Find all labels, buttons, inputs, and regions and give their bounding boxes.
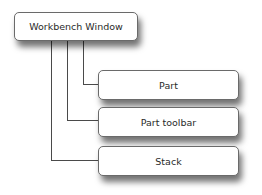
part-toolbar-label: Part toolbar — [141, 117, 197, 128]
stack-node: Stack — [98, 146, 239, 176]
workbench-window-node: Workbench Window — [14, 12, 138, 41]
connector-part-toolbar-horizontal — [67, 120, 99, 121]
part-label: Part — [159, 80, 178, 91]
stack-label: Stack — [155, 156, 181, 167]
connector-stack-vertical — [51, 40, 52, 161]
connector-part-toolbar-vertical — [67, 40, 68, 121]
workbench-window-label: Workbench Window — [29, 21, 123, 32]
connector-part-horizontal — [83, 84, 99, 85]
connector-part-vertical — [83, 40, 84, 85]
part-toolbar-node: Part toolbar — [98, 107, 239, 137]
connector-stack-horizontal — [51, 160, 99, 161]
part-node: Part — [98, 70, 239, 100]
